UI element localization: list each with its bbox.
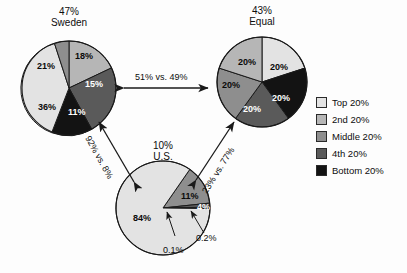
legend-label-fourth20: 4th 20%	[332, 148, 367, 159]
slice-label-equal-fourth20: 20%	[243, 104, 261, 114]
pie-name-sweden: Sweden	[39, 17, 99, 28]
slice-label-us-middle20: 4%	[197, 202, 210, 212]
pie-headline-sweden: 47%	[39, 6, 99, 17]
legend-swatch-bottom20	[316, 165, 327, 176]
slice-label-sweden-top20: 36%	[38, 102, 56, 112]
legend-swatch-second20	[316, 114, 327, 125]
legend-item-middle20: Middle 20%	[316, 128, 404, 145]
legend-item-second20: 2nd 20%	[316, 111, 404, 128]
pie-title-equal: 43% Equal	[232, 5, 292, 27]
pie-title-us: 10% U.S.	[135, 140, 191, 162]
slice-label-us-top20: 84%	[133, 213, 151, 223]
slice-label-equal-second20: 20%	[238, 57, 256, 67]
pie-title-sweden: 47% Sweden	[39, 6, 99, 28]
slice-label-equal-middle20: 20%	[222, 80, 240, 90]
slice-label-sweden-second20: 18%	[75, 51, 93, 61]
legend-item-bottom20: Bottom 20%	[316, 162, 404, 179]
pie-name-us: U.S.	[135, 151, 191, 162]
legend-item-fourth20: 4th 20%	[316, 145, 404, 162]
legend-label-top20: Top 20%	[332, 97, 369, 108]
pie-headline-us: 10%	[135, 140, 191, 151]
slice-label-us-second20: 11%	[181, 191, 199, 201]
legend-swatch-fourth20	[316, 148, 327, 159]
legend-label-middle20: Middle 20%	[332, 131, 382, 142]
slice-label-equal-bottom20: 20%	[272, 93, 290, 103]
slice-label-us-fourth20: 0.2%	[196, 233, 217, 243]
slice-label-equal-top20: 20%	[270, 62, 288, 72]
slice-label-sweden-bottom20: 11%	[68, 107, 86, 117]
legend: Top 20% 2nd 20% Middle 20% 4th 20% Botto…	[316, 94, 404, 179]
slice-label-sweden-fourth20: 15%	[85, 79, 103, 89]
three-pie-comparison-figure: 47% Sweden 43% Equal 10% U.S. 18% 15% 11…	[0, 0, 407, 273]
connector-label-sweden-equal: 51% vs. 49%	[135, 72, 188, 82]
legend-swatch-middle20	[316, 131, 327, 142]
legend-label-bottom20: Bottom 20%	[332, 165, 384, 176]
pie-name-equal: Equal	[232, 16, 292, 27]
pie-headline-equal: 43%	[232, 5, 292, 16]
slice-label-sweden-middle20: 21%	[37, 61, 55, 71]
legend-label-second20: 2nd 20%	[332, 114, 370, 125]
legend-swatch-top20	[316, 97, 327, 108]
legend-item-top20: Top 20%	[316, 94, 404, 111]
slice-label-us-bottom20: 0.1%	[163, 245, 184, 255]
